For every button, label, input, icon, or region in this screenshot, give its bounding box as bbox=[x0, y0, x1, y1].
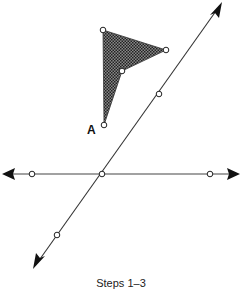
point-horizontal-left bbox=[29, 171, 35, 177]
shaded-quadrilateral bbox=[103, 30, 166, 125]
vertex-top bbox=[100, 27, 106, 33]
point-diagonal-lower bbox=[54, 232, 60, 238]
point-diagonal-upper bbox=[156, 91, 162, 97]
vertex-a bbox=[101, 122, 107, 128]
point-intersection bbox=[99, 171, 105, 177]
vertex-right bbox=[163, 47, 169, 53]
point-label-a: A bbox=[87, 123, 96, 137]
point-horizontal-right bbox=[207, 171, 213, 177]
figure-caption: Steps 1–3 bbox=[0, 277, 242, 289]
arrow-up-right-icon bbox=[210, 2, 222, 18]
vertex-inner bbox=[119, 68, 125, 74]
geometry-figure: A bbox=[0, 0, 242, 298]
